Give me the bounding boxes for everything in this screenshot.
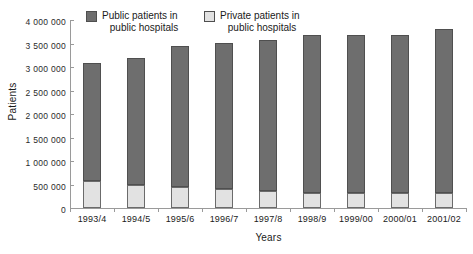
legend-label-line2: public hospitals (102, 22, 186, 34)
bar-segment-private[interactable] (259, 191, 277, 208)
x-axis-tick-mark (422, 208, 423, 212)
y-axis-tick: 2 000 000 (25, 105, 70, 123)
y-axis-tick: 1 000 000 (25, 152, 70, 170)
x-axis-tick-mark (114, 208, 115, 212)
legend-label: Public patients inpublic hospitals (102, 10, 186, 33)
y-axis-tick-label: 3 000 000 (25, 64, 70, 74)
bar-segment-private[interactable] (391, 193, 409, 208)
bar-segment-private[interactable] (127, 185, 145, 209)
x-axis-tick-mark (334, 208, 335, 212)
legend-label-line1: Public patients in (102, 10, 186, 22)
bar-segment-public[interactable] (171, 46, 189, 187)
y-axis-tick-label: 4 000 000 (25, 17, 70, 27)
bar-segment-private[interactable] (83, 181, 101, 208)
x-axis-tick-mark (70, 208, 71, 212)
legend-entry[interactable]: Public patients inpublic hospitals (86, 10, 186, 33)
y-axis-tick-label: 500 000 (33, 182, 70, 192)
y-axis-tick-label: 2 000 000 (25, 111, 70, 121)
x-axis-tick-mark (246, 208, 247, 212)
y-axis-tick: 2 500 000 (25, 82, 70, 100)
y-axis-tick-label: 1 500 000 (25, 135, 70, 145)
y-axis-tick-label: 1 000 000 (25, 158, 70, 168)
bar-segment-public[interactable] (435, 29, 453, 193)
chart-legend: Public patients inpublic hospitalsPrivat… (86, 10, 304, 33)
plot-area: 0500 0001 000 0001 500 0002 000 0002 500… (70, 20, 466, 208)
y-axis-tick: 3 500 000 (25, 35, 70, 53)
y-axis-tick-label: 2 500 000 (25, 88, 70, 98)
legend-label-line1: Private patients in (220, 10, 304, 22)
bar-segment-public[interactable] (83, 63, 101, 181)
x-axis-tick-label: 2001/02 (418, 214, 470, 224)
bar-segment-public[interactable] (391, 35, 409, 193)
x-axis-tick-mark (378, 208, 379, 212)
y-axis-tick: 1 500 000 (25, 129, 70, 147)
legend-label-line2: public hospitals (220, 22, 304, 34)
bar-chart: Patients 0500 0001 000 0001 500 0002 000… (0, 0, 473, 254)
y-axis-tick: 500 000 (33, 176, 70, 194)
y-axis-tick-label: 3 500 000 (25, 41, 70, 51)
x-axis-tick-mark (158, 208, 159, 212)
bar-segment-private[interactable] (215, 189, 233, 208)
legend-swatch-icon (204, 11, 215, 22)
x-axis-tick-mark (202, 208, 203, 212)
x-axis-title: Years (70, 232, 467, 243)
bar-segment-private[interactable] (303, 193, 321, 209)
bar-segment-public[interactable] (259, 40, 277, 190)
y-axis-tick: 4 000 000 (25, 11, 70, 29)
bar-segment-public[interactable] (303, 35, 321, 192)
bar-segment-public[interactable] (127, 58, 145, 185)
bar-segment-private[interactable] (171, 187, 189, 208)
legend-entry[interactable]: Private patients inpublic hospitals (204, 10, 304, 33)
bar-series-container (70, 20, 466, 208)
y-axis-tick: 3 000 000 (25, 58, 70, 76)
bar-segment-public[interactable] (215, 43, 233, 190)
x-axis-tick-mark (290, 208, 291, 212)
x-axis-line (70, 208, 467, 209)
bar-segment-private[interactable] (435, 193, 453, 208)
bar-segment-public[interactable] (347, 35, 365, 192)
legend-label: Private patients inpublic hospitals (220, 10, 304, 33)
legend-swatch-icon (86, 11, 97, 22)
bar-segment-private[interactable] (347, 193, 365, 209)
x-axis-tick-mark (466, 208, 467, 212)
y-axis-title: Patients (7, 62, 18, 142)
